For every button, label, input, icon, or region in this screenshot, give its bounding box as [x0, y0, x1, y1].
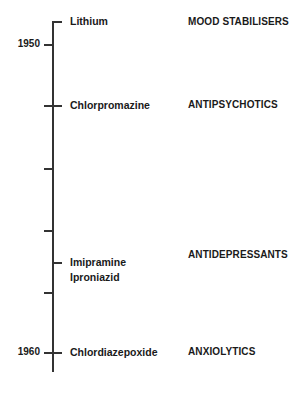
class-label-anxiolytics: ANXIOLYTICS — [188, 346, 255, 357]
timeline-axis — [52, 22, 54, 372]
class-label-antidepressants: ANTIDEPRESSANTS — [188, 249, 288, 260]
tick-minor — [44, 168, 53, 170]
tick-imipramine — [52, 262, 62, 264]
tick-1960 — [44, 352, 62, 354]
drug-label-imipramine: Imipramine — [70, 255, 126, 270]
tick-1950 — [44, 44, 53, 46]
tick-minor — [44, 292, 53, 294]
year-label-1960: 1960 — [0, 346, 40, 357]
drug-label-lithium: Lithium — [70, 14, 108, 29]
drug-label-chlordiazepoxide: Chlordiazepoxide — [70, 345, 158, 360]
tick-minor — [44, 230, 53, 232]
class-label-mood-stabilisers: MOOD STABILISERS — [188, 16, 289, 27]
class-label-antipsychotics: ANTIPSYCHOTICS — [188, 99, 278, 110]
drug-label-iproniazid: Iproniazid — [70, 270, 120, 285]
drug-label-chlorpromazine: Chlorpromazine — [70, 98, 150, 113]
tick-chlorpromazine — [44, 105, 62, 107]
year-label-1950: 1950 — [0, 38, 40, 49]
tick-lithium — [52, 21, 62, 23]
